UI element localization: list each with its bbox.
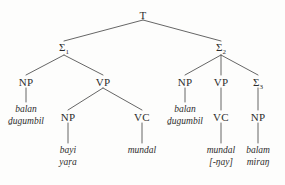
- terminal-line: ḏugumbil: [8, 116, 44, 128]
- terminal-line: bayi: [59, 145, 76, 157]
- node-vc-left: VC: [134, 112, 150, 123]
- node-sigma3: Σ3: [253, 77, 263, 93]
- terminal-line: balan: [167, 104, 203, 116]
- terminal-line: mundal: [128, 145, 157, 157]
- sigma3-subscript: 3: [260, 83, 264, 91]
- terminal-line: ḏugumbil: [167, 116, 203, 128]
- edge-vp-vc: [103, 88, 142, 110]
- node-np-left-inner: NP: [61, 112, 76, 123]
- edge-sigma2-sigma3: [221, 55, 258, 75]
- node-vc-right: VC: [213, 112, 229, 123]
- terminal-np-left-outer: balan ḏugumbil: [8, 104, 44, 127]
- terminal-line: mundal: [207, 145, 236, 157]
- terminal-line: balam: [246, 145, 270, 157]
- node-sigma2: Σ2: [216, 42, 226, 58]
- terminal-line: balan: [8, 104, 44, 116]
- node-np-right-inner: NP: [251, 112, 266, 123]
- edge-t-sigma1: [64, 20, 143, 41]
- terminal-vc-left: mundal: [128, 145, 157, 157]
- sigma2-subscript: 2: [223, 48, 227, 56]
- node-np-right-outer: NP: [178, 77, 193, 88]
- terminal-np-right-inner: balam miraŋ: [246, 145, 270, 168]
- tree-edges: [0, 0, 285, 185]
- node-t: T: [139, 10, 146, 21]
- node-sigma1: Σ1: [59, 42, 69, 58]
- terminal-np-left-inner: bayi yaṛa: [59, 145, 76, 168]
- terminal-line: miraŋ: [246, 157, 270, 169]
- syntax-tree-diagram: T Σ1 Σ2 NP VP NP VC NP VP Σ3 VC NP balan…: [0, 0, 285, 185]
- node-vp-right: VP: [214, 77, 229, 88]
- edge-t-sigma2: [143, 20, 221, 41]
- node-vp-left: VP: [96, 77, 111, 88]
- node-np-left-outer: NP: [19, 77, 34, 88]
- sigma1-subscript: 1: [66, 48, 70, 56]
- terminal-np-right-outer: balan ḏugumbil: [167, 104, 203, 127]
- edge-vp-np: [68, 88, 103, 110]
- terminal-line: [-ŋay]: [207, 157, 236, 169]
- edge-sigma1-vp: [64, 55, 103, 75]
- terminal-vc-right: mundal [-ŋay]: [207, 145, 236, 168]
- terminal-line: yaṛa: [59, 157, 76, 169]
